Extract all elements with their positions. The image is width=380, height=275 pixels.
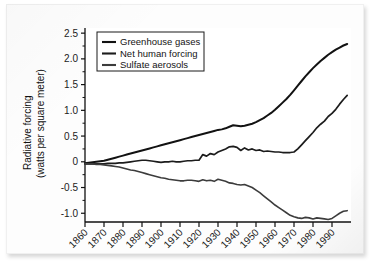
x-tick-label: 1910 — [161, 226, 185, 250]
x-tick-label: 1940 — [218, 226, 242, 250]
x-tick-label: 1900 — [142, 226, 166, 250]
y-tick-label: 1.0 — [64, 105, 78, 116]
y-axis-title-line2: (watts per square meter) — [35, 69, 46, 178]
legend-label-0: Greenhouse gases — [120, 36, 201, 47]
radiative-forcing-line-chart: 2.52.01.51.00.50-0.5-1.0 186018701880189… — [0, 0, 380, 275]
y-tick-label: -1.0 — [61, 208, 79, 219]
x-tick-label: 1870 — [85, 226, 109, 250]
chart-legend: Greenhouse gasesNet human forcingSulfate… — [97, 32, 204, 71]
x-tick-label: 1880 — [104, 226, 128, 250]
figure-root: 2.52.01.51.00.50-0.5-1.0 186018701880189… — [0, 0, 380, 275]
x-tick-label: 1970 — [275, 226, 299, 250]
y-axis-title: Radiative forcing (watts per square mete… — [22, 69, 46, 178]
x-tick-label: 1960 — [256, 226, 280, 250]
x-tick-label: 1920 — [180, 226, 204, 250]
x-tick-label: 1990 — [313, 226, 337, 250]
x-tick-label: 1860 — [66, 226, 90, 250]
x-tick-label: 1930 — [199, 226, 223, 250]
x-tick-group: 1860187018801890190019101920193019401950… — [66, 222, 337, 250]
legend-label-1: Net human forcing — [120, 48, 198, 59]
y-tick-label: 2.0 — [64, 53, 78, 64]
y-tick-label: -0.5 — [61, 182, 79, 193]
y-tick-label: 2.5 — [64, 28, 78, 39]
legend-label-2: Sulfate aerosols — [120, 59, 188, 70]
x-tick-label: 1890 — [123, 226, 147, 250]
y-tick-label: 0.5 — [64, 131, 78, 142]
y-tick-label: 1.5 — [64, 79, 78, 90]
y-axis-title-line1: Radiative forcing — [22, 96, 33, 170]
x-tick-label: 1950 — [237, 226, 261, 250]
x-tick-label: 1980 — [294, 226, 318, 250]
y-tick-group: 2.52.01.51.00.50-0.5-1.0 — [61, 28, 85, 219]
y-tick-label: 0 — [72, 156, 78, 167]
